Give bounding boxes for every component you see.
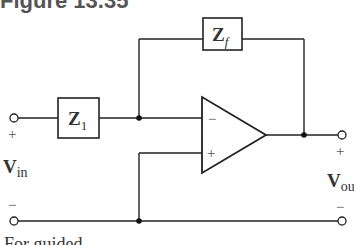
figure-title: Figure 13.35 (0, 0, 128, 13)
z1-label: Z (68, 108, 81, 129)
noninverting-input-sign: + (207, 145, 215, 161)
op-amp: − + (202, 97, 266, 173)
inverting-input-sign: − (208, 111, 216, 127)
inverting-node (136, 115, 142, 121)
input-plus-terminal (10, 114, 18, 122)
output-plus-sign: + (336, 143, 344, 159)
output-node (301, 132, 307, 138)
output-minus-terminal (338, 217, 346, 225)
input-voltage-label: Vin (3, 156, 28, 180)
output-voltage-label: Vou (327, 170, 354, 194)
input-plus-sign: + (8, 126, 16, 142)
output-plus-terminal (338, 131, 346, 139)
inverting-amplifier-diagram: Figure 13.35 Z1 Zf − + + (0, 0, 354, 245)
ground-node (136, 218, 142, 224)
z1-impedance: Z1 (58, 98, 99, 138)
figure-caption: For guided (4, 234, 83, 245)
zf-label: Z (212, 24, 225, 45)
z1-subscript: 1 (81, 118, 88, 133)
zf-impedance: Zf (203, 18, 242, 50)
input-minus-sign: − (8, 197, 16, 213)
output-minus-sign: − (336, 199, 344, 215)
input-minus-terminal (10, 217, 18, 225)
